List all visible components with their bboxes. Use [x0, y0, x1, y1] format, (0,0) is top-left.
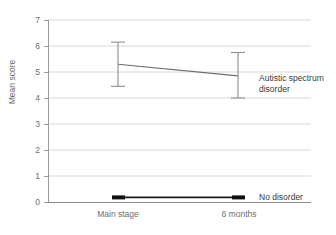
- error-bar-no-disorder-main-stage: [112, 195, 125, 199]
- y-axis-ticks: [44, 21, 48, 203]
- y-tick-label-7: 7: [26, 16, 40, 25]
- series-autistic-spectrum-disorder: [111, 42, 245, 98]
- x-tick-label-6-months: 6 months: [199, 209, 279, 219]
- y-tick-label-5: 5: [26, 68, 40, 77]
- series-line-asd: [118, 64, 238, 76]
- y-tick-label-4: 4: [26, 94, 40, 103]
- series-label-autistic-spectrum-disorder: Autistic spectrum disorder: [259, 73, 335, 95]
- gridlines: [48, 20, 311, 176]
- series-no-disorder: [112, 195, 245, 199]
- y-tick-label-0: 0: [26, 198, 40, 207]
- y-axis-title-wrapper: Mean score: [6, 47, 18, 117]
- error-bar-no-disorder-6-months: [232, 195, 245, 199]
- chart-container: 7 6 5 4 3 2 1 0 Mean score Main stage 6 …: [0, 0, 336, 235]
- series-label-no-disorder: No disorder: [259, 192, 335, 203]
- y-tick-label-1: 1: [26, 172, 40, 181]
- y-axis-title: Mean score: [6, 47, 18, 117]
- y-tick-label-3: 3: [26, 120, 40, 129]
- x-tick-label-main-stage: Main stage: [78, 209, 158, 219]
- y-tick-label-2: 2: [26, 146, 40, 155]
- y-tick-label-6: 6: [26, 42, 40, 51]
